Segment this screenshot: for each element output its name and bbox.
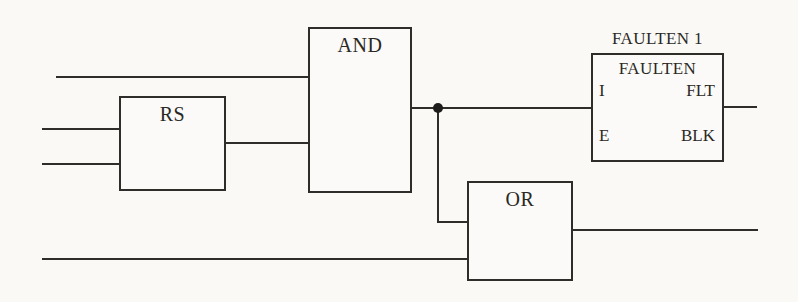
port-label-e: E [599, 127, 609, 144]
wire-rs-to-and [226, 142, 308, 144]
faulten-instance-label: FAULTEN 1 [591, 29, 724, 49]
wire-rs-input-bottom [42, 163, 119, 165]
and-block-label: AND [310, 34, 410, 57]
wire-and-input-top [56, 76, 308, 78]
function-block-diagram: RS AND OR FAULTEN 1 FAULTEN I FLT E BLK [0, 0, 798, 302]
faulten-block: FAULTEN I FLT E BLK [591, 53, 724, 162]
rs-block: RS [119, 96, 226, 191]
wire-or-output [573, 229, 758, 231]
and-block: AND [308, 27, 412, 193]
junction-dot [433, 103, 443, 113]
wire-flt-output [724, 106, 757, 108]
or-block-label: OR [469, 188, 571, 211]
wire-branch-vertical [437, 107, 439, 223]
port-label-blk: BLK [681, 127, 715, 144]
port-label-i: I [599, 82, 605, 99]
port-label-flt: FLT [686, 82, 715, 99]
wire-or-input-bottom [42, 258, 467, 260]
faulten-type-label: FAULTEN [593, 59, 722, 79]
or-block: OR [467, 181, 573, 281]
wire-branch-to-or [437, 221, 467, 223]
wire-rs-input-top [42, 128, 119, 130]
rs-block-label: RS [121, 103, 224, 126]
